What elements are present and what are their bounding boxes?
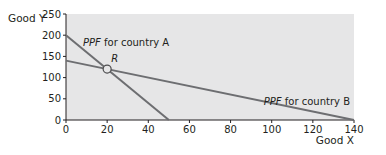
x-tick-label: 80 [224,124,237,135]
x-axis-ticks: 020406080100120140 [63,120,364,135]
series-b-label: PPF for country B [264,96,350,107]
series-a-label: PPF for country A [83,37,169,48]
x-tick-label: 100 [262,124,281,135]
y-tick-label: 0 [55,115,61,126]
ppf-chart: 050100150200250 020406080100120140 R Goo… [0,0,386,155]
x-tick-label: 60 [183,124,196,135]
x-axis-label: Good X [316,134,354,146]
y-tick-label: 50 [48,93,61,104]
y-axis-ticks: 050100150200250 [42,9,66,126]
y-tick-label: 150 [42,51,61,62]
x-tick-label: 20 [101,124,114,135]
x-tick-label: 0 [63,124,69,135]
y-axis-label: Good Y [8,12,46,24]
point-r-label: R [111,53,118,64]
point-r-marker [103,65,111,73]
x-tick-label: 40 [142,124,155,135]
y-tick-label: 200 [42,30,61,41]
y-tick-label: 100 [42,72,61,83]
